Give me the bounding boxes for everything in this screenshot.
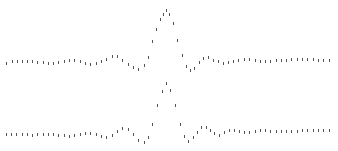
data-point-tick xyxy=(260,129,261,132)
data-point-tick xyxy=(291,130,292,133)
data-point-tick xyxy=(329,129,330,132)
data-point-tick xyxy=(162,90,163,93)
data-point-tick xyxy=(69,135,70,138)
data-point-tick xyxy=(214,132,215,135)
data-point-tick xyxy=(255,130,256,133)
data-point-tick xyxy=(106,136,107,139)
data-point-tick xyxy=(144,141,145,144)
data-point-tick xyxy=(90,132,91,135)
data-point-tick xyxy=(148,136,149,139)
data-point-tick xyxy=(32,134,33,137)
data-point-tick xyxy=(170,89,171,92)
data-point-tick xyxy=(96,133,97,136)
data-point-tick xyxy=(318,129,319,132)
data-point-tick xyxy=(85,132,86,135)
data-point-tick xyxy=(201,126,202,129)
data-point-tick xyxy=(80,133,81,136)
data-point-tick xyxy=(219,134,220,137)
data-point-tick xyxy=(74,134,75,137)
data-point-tick xyxy=(224,131,225,134)
data-point-tick xyxy=(122,127,123,130)
data-point-tick xyxy=(27,133,28,136)
data-point-tick xyxy=(166,82,167,85)
data-point-tick xyxy=(138,139,139,142)
data-point-tick xyxy=(22,133,23,136)
data-point-tick xyxy=(37,133,38,136)
data-point-tick xyxy=(229,129,230,132)
data-point-tick xyxy=(128,128,129,131)
data-point-tick xyxy=(117,130,118,133)
data-point-tick xyxy=(265,129,266,132)
data-point-tick xyxy=(234,129,235,132)
data-point-tick xyxy=(286,130,287,133)
data-point-tick xyxy=(112,134,113,137)
data-point-tick xyxy=(276,130,277,133)
data-point-tick xyxy=(297,130,298,133)
lower-oscillation-trace xyxy=(0,0,338,151)
data-point-tick xyxy=(210,129,211,132)
data-point-tick xyxy=(270,130,271,133)
data-point-tick xyxy=(6,133,7,136)
data-point-tick xyxy=(133,133,134,136)
data-point-tick xyxy=(48,133,49,136)
data-point-tick xyxy=(193,136,194,139)
data-point-tick xyxy=(53,133,54,136)
data-point-tick xyxy=(175,104,176,107)
data-point-tick xyxy=(239,130,240,133)
data-point-tick xyxy=(197,131,198,134)
data-point-tick xyxy=(188,140,189,143)
data-point-tick xyxy=(307,129,308,132)
data-point-tick xyxy=(101,135,102,138)
data-point-tick xyxy=(323,129,324,132)
data-point-tick xyxy=(43,133,44,136)
data-point-tick xyxy=(281,130,282,133)
data-point-tick xyxy=(157,104,158,107)
data-point-tick xyxy=(58,134,59,137)
data-point-tick xyxy=(244,131,245,134)
data-point-tick xyxy=(302,129,303,132)
data-point-tick xyxy=(152,123,153,126)
data-point-tick xyxy=(11,133,12,136)
data-point-tick xyxy=(249,131,250,134)
data-point-tick xyxy=(64,134,65,137)
data-point-tick xyxy=(313,129,314,132)
data-point-tick xyxy=(180,123,181,126)
data-point-tick xyxy=(206,126,207,129)
data-point-tick xyxy=(16,133,17,136)
data-point-tick xyxy=(184,135,185,138)
